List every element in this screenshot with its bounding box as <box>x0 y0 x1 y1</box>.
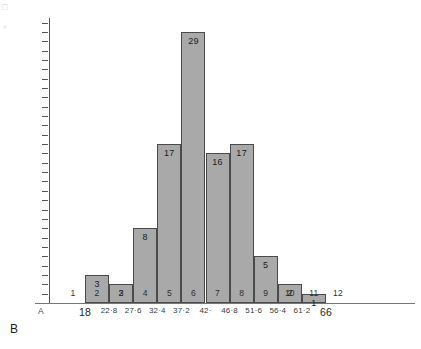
interval-index-label: 6 <box>181 288 205 298</box>
histogram-bar: 17 <box>230 144 254 303</box>
bar-value-label: 8 <box>134 232 156 242</box>
histogram-bar: 17 <box>157 144 181 303</box>
x-axis-tick-label: 66 <box>311 306 341 318</box>
interval-index-label: 9 <box>254 288 278 298</box>
interval-index-label: 3 <box>109 288 133 298</box>
interval-index-label: 11 <box>302 288 326 298</box>
histogram-bar: 16 <box>206 153 230 303</box>
bar-value-label: 17 <box>158 148 180 158</box>
interval-index-label: 2 <box>85 288 109 298</box>
bar-value-label: 29 <box>182 36 204 46</box>
interval-index-label: 4 <box>133 288 157 298</box>
bar-value-label: 17 <box>231 148 253 158</box>
interval-index-label: 10 <box>278 288 302 298</box>
bar-value-label: 5 <box>255 260 277 270</box>
axis-origin-letter: A <box>38 306 44 316</box>
interval-index-label: 12 <box>326 288 350 298</box>
interval-index-label: 1 <box>61 288 85 298</box>
figure-letter: B <box>10 322 18 336</box>
histogram-bar: 29 <box>181 32 205 303</box>
interval-index-label: 8 <box>230 288 254 298</box>
bar-value-label: 16 <box>207 157 229 167</box>
histogram-figure: □ ▫ 30.29.28.27.26.25.24.23.22.21.20.19.… <box>0 0 421 349</box>
interval-index-label: 7 <box>206 288 230 298</box>
interval-index-label: 5 <box>157 288 181 298</box>
